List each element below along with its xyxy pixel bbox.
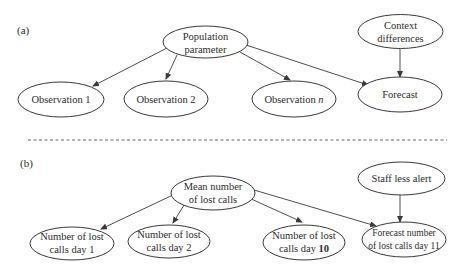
node-forecast-lost-calls-day-11: Forecast number of lost calls day 11 <box>362 222 446 257</box>
node-population-parameter: Population parameter <box>163 26 248 58</box>
node-text: Observation 2 <box>136 94 195 105</box>
edge-parent-forecast <box>246 45 368 85</box>
node-text: of lost calls <box>189 194 237 205</box>
node-text: calls day 2 <box>147 242 192 253</box>
panel-a: (a) Population parameter Context differe… <box>17 15 443 118</box>
node-text: Context <box>384 20 417 31</box>
edge-parent-obs2 <box>173 205 184 223</box>
node-observation-1: Observation 1 <box>18 82 104 117</box>
node-text: parameter <box>185 44 227 55</box>
node-text: differences <box>377 33 423 44</box>
node-text: Population <box>183 31 229 42</box>
node-text: of lost calls day 11 <box>368 241 440 251</box>
edge-parent-obs1 <box>93 48 167 86</box>
node-text: Number of lost <box>272 230 336 241</box>
node-observation-n: Observation n <box>252 81 336 117</box>
panel-b: (b) Mean number of lost calls Staff less… <box>20 157 446 260</box>
edge-parent-obsn <box>240 52 290 80</box>
edge-parent-obs2 <box>166 55 177 79</box>
node-text: calls day 10 <box>279 243 329 254</box>
node-observation-2: Observation 2 <box>124 81 208 117</box>
node-text: Forecast number <box>372 228 436 238</box>
node-lost-calls-day-10: Number of lost calls day 10 <box>263 225 345 260</box>
edge-parent-forecast <box>254 190 376 226</box>
node-context-differences: Context differences <box>358 15 443 49</box>
node-mean-number-lost-calls: Mean number of lost calls <box>171 176 255 210</box>
edge-parent-obs1 <box>101 194 175 229</box>
node-text: calls day 1 <box>50 244 95 255</box>
node-text: Forecast <box>382 89 418 100</box>
node-staff-less-alert: Staff less alert <box>358 162 445 195</box>
node-text: Number of lost <box>137 229 201 240</box>
node-lost-calls-day-1: Number of lost calls day 1 <box>30 227 114 260</box>
node-text: Mean number <box>184 181 243 192</box>
panel-a-label: (a) <box>17 24 30 37</box>
node-forecast: Forecast <box>358 77 442 112</box>
node-text: Number of lost <box>40 231 104 242</box>
panel-b-label: (b) <box>20 157 33 170</box>
node-text: Observation n <box>264 94 323 105</box>
node-text: Staff less alert <box>372 173 432 184</box>
node-lost-calls-day-2: Number of lost calls day 2 <box>128 225 210 258</box>
diagram-canvas: (a) Population parameter Context differe… <box>0 0 465 273</box>
node-text: Observation 1 <box>31 94 90 105</box>
